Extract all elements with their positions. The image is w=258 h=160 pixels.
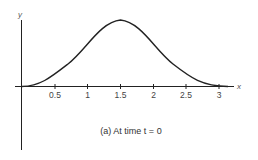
- tick-label: 1: [85, 90, 90, 100]
- tick-label: 0.5: [49, 90, 61, 100]
- tick-label: 2.5: [180, 90, 192, 100]
- figure-caption: (a) At time t = 0: [100, 126, 161, 136]
- waveform-curve: [22, 20, 228, 87]
- x-tick-labels: 0.5 1 1.5 2 2.5 3: [49, 90, 222, 100]
- x-axis-label: x: [236, 82, 242, 91]
- waveform-figure: y x 0.5 1 1.5 2 2.5 3 (a) At time t = 0: [0, 0, 258, 160]
- tick-label: 1.5: [115, 90, 127, 100]
- tick-label: 3: [217, 90, 222, 100]
- y-axis-label: y: [17, 10, 23, 19]
- tick-label: 2: [151, 90, 156, 100]
